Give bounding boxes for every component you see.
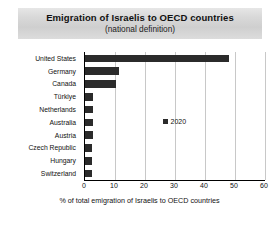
x-tick-label-30: 30: [170, 182, 178, 189]
category-label: Czech Republic: [0, 142, 76, 155]
bar-row: [85, 65, 265, 78]
category-label: Netherlands: [0, 103, 76, 116]
bar-row: [85, 129, 265, 142]
legend-label: 2020: [171, 118, 187, 125]
legend: 2020: [163, 118, 186, 125]
bar-row: [85, 154, 265, 167]
x-tick-label-10: 10: [110, 182, 118, 189]
bar: [85, 157, 92, 165]
x-tick-label-20: 20: [140, 182, 148, 189]
bar: [85, 55, 229, 63]
bar-series-2020: [85, 52, 265, 180]
plot-area: [84, 52, 265, 181]
category-axis-labels: United StatesGermanyCanadaTürkiyeNetherl…: [0, 52, 80, 180]
bar-chart: United StatesGermanyCanadaTürkiyeNetherl…: [0, 44, 279, 229]
bar-row: [85, 52, 265, 65]
category-label: Germany: [0, 65, 76, 78]
x-tick-label-60: 60: [260, 182, 268, 189]
bar-row: [85, 103, 265, 116]
chart-subtitle: (national definition): [105, 24, 175, 35]
bar: [85, 93, 93, 101]
x-tick-label-50: 50: [230, 182, 238, 189]
bar: [85, 170, 92, 178]
x-axis-tick-labels: 0102030405060: [0, 182, 279, 194]
category-label: Austria: [0, 129, 76, 142]
gridline-60: [265, 52, 266, 180]
bar: [85, 67, 119, 75]
bar-row: [85, 90, 265, 103]
category-label: Canada: [0, 78, 76, 91]
bar-row: [85, 167, 265, 180]
bar-row: [85, 142, 265, 155]
category-label: United States: [0, 52, 76, 65]
category-label: Hungary: [0, 154, 76, 167]
bar: [85, 80, 116, 88]
bar: [85, 106, 93, 114]
bar-row: [85, 78, 265, 91]
x-tick-label-40: 40: [200, 182, 208, 189]
chart-title-band: Emigration of Israelis to OECD countries…: [18, 8, 262, 39]
x-tick-label-0: 0: [82, 182, 86, 189]
chart-title: Emigration of Israelis to OECD countries: [46, 12, 234, 24]
category-label: Türkiye: [0, 90, 76, 103]
legend-square-marker-icon: [163, 119, 168, 124]
bar: [85, 144, 92, 152]
x-axis-title: % of total emigration of Israelis to OEC…: [0, 196, 279, 205]
bar: [85, 119, 93, 127]
category-label: Switzerland: [0, 167, 76, 180]
category-label: Australia: [0, 116, 76, 129]
bar: [85, 131, 93, 139]
